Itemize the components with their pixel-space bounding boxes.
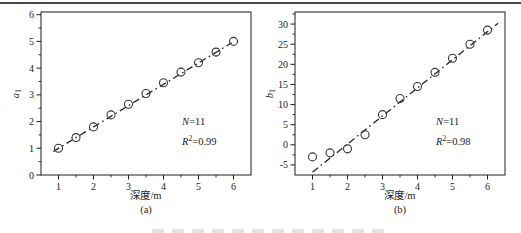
x-tick-label: 1 <box>56 181 61 192</box>
x-tick-label: 6 <box>485 181 490 192</box>
y-tick-label: 30 <box>278 19 288 30</box>
annotation-r2: R2=0.99 <box>181 134 216 147</box>
data-point <box>484 26 492 34</box>
x-tick-label: 5 <box>196 181 201 192</box>
y-tick-label: 4 <box>29 63 34 74</box>
data-point <box>177 68 185 76</box>
panel-a: 1234560123456N=11R2=0.99深度/m(a)a1 <box>10 9 251 216</box>
panel-b: 123456-5051015202530N=11R2=0.98深度/m(b)b1 <box>264 12 505 216</box>
data-point <box>195 59 203 67</box>
y-tick-label: 0 <box>29 170 34 181</box>
panel-label-b: (b) <box>394 204 407 216</box>
data-point <box>379 111 387 119</box>
x-tick-label: 2 <box>345 181 350 192</box>
y-tick-label: 0 <box>283 139 288 150</box>
figure-two-panel-scatter: 1234560123456N=11R2=0.99深度/m(a)a1123456-… <box>0 0 521 233</box>
x-axis-label-a: 深度/m <box>130 189 161 201</box>
y-tick-label: 1 <box>29 143 34 154</box>
y-tick-label: 10 <box>278 99 288 110</box>
x-tick-label: 5 <box>450 181 455 192</box>
y-tick-label: 3 <box>29 89 34 100</box>
y-tick-label: -5 <box>280 159 288 170</box>
y-tick-label: 6 <box>29 9 34 20</box>
data-point <box>230 37 238 45</box>
x-tick-label: 4 <box>161 181 166 192</box>
y-axis-label-b: b1 <box>264 89 277 98</box>
cropped-caption-remnant <box>152 229 390 233</box>
annotation-n: N=11 <box>435 116 459 127</box>
data-point <box>326 149 334 157</box>
y-tick-label: 5 <box>283 119 288 130</box>
y-tick-label: 2 <box>29 116 34 127</box>
data-point <box>414 82 422 90</box>
y-tick-label: 15 <box>278 79 288 90</box>
fit-line-b <box>313 23 499 172</box>
figure-canvas: 1234560123456N=11R2=0.99深度/m(a)a1123456-… <box>0 0 521 233</box>
y-axis-label-a: a1 <box>10 89 23 98</box>
x-tick-label: 1 <box>310 181 315 192</box>
y-tick-label: 25 <box>278 39 288 50</box>
x-tick-label: 4 <box>415 181 420 192</box>
x-axis-label-b: 深度/m <box>384 189 415 201</box>
annotation-r2: R2=0.98 <box>435 134 470 147</box>
data-point <box>160 79 168 87</box>
data-point <box>309 153 317 161</box>
x-tick-label: 6 <box>231 181 236 192</box>
x-tick-label: 2 <box>91 181 96 192</box>
panel-label-a: (a) <box>140 204 152 216</box>
data-point <box>107 111 115 119</box>
data-point <box>344 145 352 153</box>
data-point <box>125 100 133 108</box>
data-point <box>361 131 369 139</box>
plot-frame-a <box>41 12 251 175</box>
y-tick-label: 20 <box>278 59 288 70</box>
y-tick-label: 5 <box>29 36 34 47</box>
annotation-n: N=11 <box>181 116 205 127</box>
